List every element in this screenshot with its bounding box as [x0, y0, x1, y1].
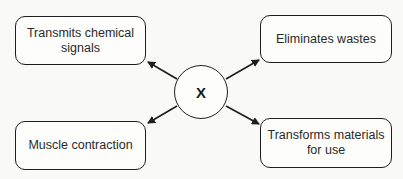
box-label: Muscle contraction [28, 138, 132, 153]
arrow-to-transforms [226, 106, 259, 124]
box-transforms-materials: Transforms materials for use [260, 118, 392, 168]
box-label: Eliminates wastes [276, 32, 376, 47]
box-label: Transmits chemical signals [22, 26, 139, 56]
center-label: X [196, 84, 206, 101]
diagram-canvas: Transmits chemical signals Eliminates wa… [0, 0, 403, 179]
arrow-to-muscle [148, 106, 177, 123]
box-muscle-contraction: Muscle contraction [15, 121, 146, 170]
arrow-to-transmits [148, 62, 177, 79]
box-label: Transforms materials for use [267, 128, 385, 158]
box-eliminates-wastes: Eliminates wastes [260, 15, 392, 63]
center-node-x: X [174, 65, 228, 119]
box-transmits-chemical-signals: Transmits chemical signals [15, 16, 146, 65]
arrow-to-eliminates [226, 60, 259, 79]
